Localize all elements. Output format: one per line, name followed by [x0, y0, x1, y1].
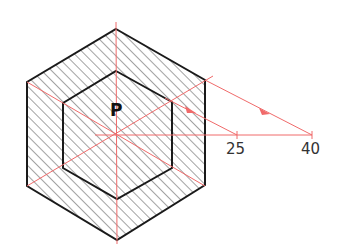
- scale-label-40: 40: [301, 140, 320, 158]
- arrow-icon: [259, 108, 270, 115]
- point-label-p: P: [110, 100, 122, 120]
- scale-label-25: 25: [226, 140, 245, 158]
- hexagon-diagram: [0, 0, 346, 248]
